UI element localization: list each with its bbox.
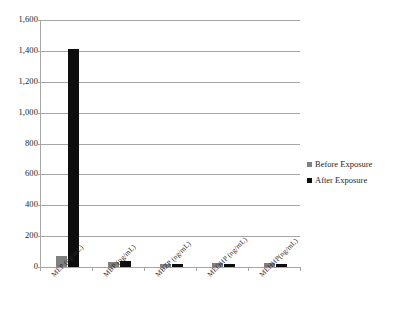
y-axis-tick-label: 800 [4, 139, 38, 148]
y-axis-tick-mark [37, 174, 40, 175]
y-axis-tick-label: 1,200 [4, 77, 38, 86]
y-axis-tick-label: 1,600 [4, 15, 38, 24]
y-axis-tick-mark [37, 205, 40, 206]
bar-group [93, 20, 145, 267]
legend-label-before: Before Exposure [315, 159, 372, 169]
y-axis-tick-mark [37, 51, 40, 52]
bar-group [41, 20, 93, 267]
y-axis-tick-mark [37, 82, 40, 83]
bars-layer [41, 20, 300, 267]
legend-item-after: After Exposure [307, 173, 403, 187]
y-axis-tick-label: 400 [4, 200, 38, 209]
y-axis-tick-label: 1,000 [4, 108, 38, 117]
bar-group [249, 20, 301, 267]
y-axis-tick-mark [37, 144, 40, 145]
x-axis-category-labels: MEP (ng/mL)MBP (ng/mL)MBZP (ng/mL)MEOHP … [0, 267, 403, 334]
bar-group [145, 20, 197, 267]
bar-group [197, 20, 249, 267]
legend-swatch-after-icon [307, 178, 312, 183]
y-axis-tick-mark [37, 236, 40, 237]
legend-swatch-before-icon [307, 162, 312, 167]
bar-after [68, 49, 79, 267]
legend-item-before: Before Exposure [307, 157, 403, 171]
y-axis-tick-mark [37, 20, 40, 21]
bar-chart: 1,6001,4001,2001,0008006004002000 MEP (n… [0, 0, 403, 334]
y-axis-tick-label: 600 [4, 169, 38, 178]
legend-label-after: After Exposure [315, 175, 367, 185]
y-axis-tick-label: 200 [4, 231, 38, 240]
y-axis-tick-label: 1,400 [4, 46, 38, 55]
chart-legend: Before Exposure After Exposure [307, 157, 403, 189]
y-axis-tick-mark [37, 113, 40, 114]
